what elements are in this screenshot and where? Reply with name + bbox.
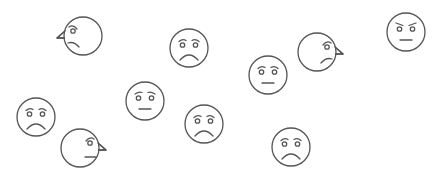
- face-frontal-angry-icon: [387, 13, 425, 51]
- faces-svg: [0, 0, 437, 178]
- face-stimulus-canvas: [0, 0, 437, 178]
- face-frontal-sad-icon: [185, 105, 223, 143]
- face-frontal-sad-icon: [170, 29, 208, 67]
- face-frontal-neutral-icon: [249, 56, 287, 94]
- face-profile-right-neutral-icon: [61, 129, 106, 167]
- face-profile-right-sad-icon: [298, 33, 343, 71]
- face-frontal-worried-icon: [126, 82, 164, 120]
- face-profile-left-sad-icon: [57, 17, 102, 55]
- face-frontal-sad-icon: [17, 98, 55, 136]
- face-frontal-sad-icon: [272, 128, 310, 166]
